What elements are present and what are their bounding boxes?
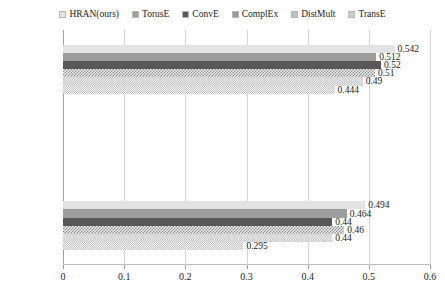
x-tick-label: 0.1 — [118, 271, 131, 282]
legend-swatch-icon — [182, 11, 189, 18]
legend-item-conve[interactable]: ConvE — [182, 9, 218, 19]
legend-item-distmult[interactable]: DistMult — [291, 9, 335, 19]
chart-legend: HRAN(ours)TorusEConvEComplExDistMultTran… — [0, 6, 445, 22]
legend-item-hran-ours[interactable]: HRAN(ours) — [59, 9, 119, 19]
legend-label: HRAN(ours) — [69, 9, 119, 19]
legend-swatch-icon — [132, 11, 139, 18]
bar-row: 0.444 — [63, 86, 430, 94]
x-tick-mark — [185, 265, 186, 269]
bar-conve-hit-at-10[interactable] — [63, 61, 381, 69]
legend-item-toruse[interactable]: TorusE — [132, 9, 169, 19]
legend-label: TorusE — [142, 9, 169, 19]
bar-chart: HRAN(ours)TorusEConvEComplExDistMultTran… — [0, 0, 445, 302]
legend-item-complex[interactable]: ComplEx — [232, 9, 278, 19]
x-tick-label: 0.3 — [240, 271, 253, 282]
plot-area: 00.10.20.30.40.50.60.5420.5120.520.510.4… — [63, 30, 430, 265]
bar-transe-hit-at-10[interactable] — [63, 86, 335, 94]
bar-distmult-hit-at-10[interactable] — [63, 77, 363, 85]
legend-swatch-icon — [59, 11, 66, 18]
x-tick-label: 0.2 — [179, 271, 192, 282]
bar-value-label: 0.444 — [335, 85, 359, 95]
legend-label: DistMult — [301, 9, 335, 19]
x-tick-label: 0.5 — [363, 271, 376, 282]
legend-swatch-icon — [348, 11, 355, 18]
bar-toruse-hit-at-10[interactable] — [63, 53, 376, 61]
legend-item-transe[interactable]: TransE — [348, 9, 385, 19]
legend-label: TransE — [358, 9, 385, 19]
x-tick-label: 0 — [61, 271, 66, 282]
x-tick-mark — [124, 265, 125, 269]
bar-hran-ours-hit-at-10[interactable] — [63, 45, 395, 53]
x-tick-mark — [247, 265, 248, 269]
x-tick-mark — [430, 265, 431, 269]
x-tick-mark — [308, 265, 309, 269]
gridline — [430, 30, 431, 265]
legend-label: ConvE — [192, 9, 218, 19]
bar-row: 0.49 — [63, 77, 430, 85]
x-tick-mark — [63, 265, 64, 269]
bar-group-hit-at-1: 0.450.4220.40.410.390.027 — [63, 187, 430, 265]
legend-swatch-icon — [232, 11, 239, 18]
legend-label: ComplEx — [242, 9, 278, 19]
bar-row: 0.542 — [63, 45, 430, 53]
legend-swatch-icon — [291, 11, 298, 18]
x-tick-label: 0.4 — [301, 271, 314, 282]
bar-row: 0.512 — [63, 53, 430, 61]
bar-group-hit-at-10: 0.5420.5120.520.510.490.444 — [63, 30, 430, 108]
bar-group-hit-at-3: 0.4940.4640.440.460.440.295 — [63, 108, 430, 186]
x-tick-mark — [369, 265, 370, 269]
x-tick-label: 0.6 — [424, 271, 437, 282]
bar-complex-hit-at-10[interactable] — [63, 69, 375, 77]
